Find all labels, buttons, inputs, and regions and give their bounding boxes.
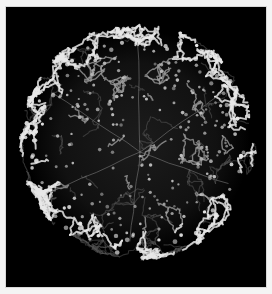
- image-frame: [6, 7, 266, 287]
- spherical-mesh-render: [6, 7, 266, 287]
